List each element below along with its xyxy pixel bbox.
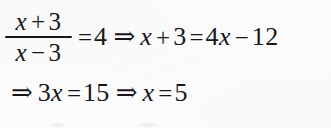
numerator-variable: x [16,8,29,35]
constant-four: 4 [94,24,107,50]
fraction-bar [5,36,72,38]
fraction-numerator: x+3 [14,8,64,35]
rhs-variable: x [219,24,232,50]
denominator-variable: x [16,39,29,66]
equals-sign-2: = [186,25,205,50]
implies-arrow-2: ⇒ [5,80,38,106]
fraction-denominator: x−3 [14,39,64,66]
line2-coefficient: 3 [38,80,51,106]
line2-equals-1: = [64,81,83,106]
solution-value: 5 [174,80,187,106]
equation-line-1: x+3 x−3 = 4 ⇒ x + 3 = 4 x − 12 [5,6,278,68]
line2-variable-1: x [51,80,64,106]
line2-equals-2: = [155,81,174,106]
fraction-expression: x+3 x−3 [5,8,72,66]
numerator-operator: + [28,8,49,35]
page-bleed-through [40,118,220,128]
denominator-number: 3 [49,39,62,66]
implies-arrow-1: ⇒ [107,24,140,50]
line2-value: 15 [83,80,110,106]
rhs-coefficient: 4 [206,24,219,50]
rhs-operator: − [232,25,252,50]
lhs-variable: x [140,24,153,50]
denominator-operator: − [28,39,49,66]
lhs-number: 3 [173,24,186,50]
scanned-page: x+3 x−3 = 4 ⇒ x + 3 = 4 x − 12 ⇒ 3 x = 1… [0,0,331,128]
equation-line-2: ⇒ 3 x = 15 ⇒ x = 5 [5,76,188,110]
equals-sign-1: = [75,25,94,50]
implies-arrow-3: ⇒ [110,80,143,106]
rhs-number: 12 [252,24,279,50]
line2-variable-2: x [142,80,155,106]
lhs-operator: + [153,25,173,50]
numerator-number: 3 [49,8,62,35]
